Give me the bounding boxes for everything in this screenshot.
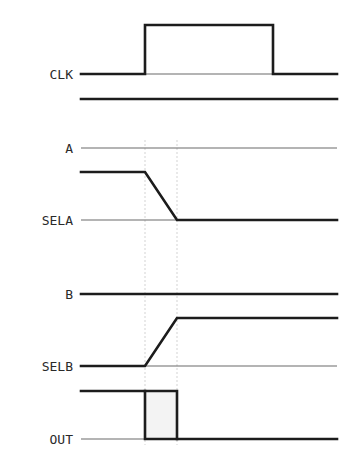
timing-diagram: CLK A SELA B SELB OUT [0, 0, 355, 464]
signal-label-a: A [65, 141, 73, 156]
out-waveform [81, 391, 337, 439]
signal-label-out: OUT [50, 432, 74, 447]
signal-label-b: B [65, 287, 73, 302]
signal-b: B [65, 287, 337, 302]
signal-sela: SELA [42, 172, 337, 228]
out-glitch-fill [145, 391, 177, 439]
selb-waveform [81, 318, 337, 366]
signal-out: OUT [50, 391, 337, 447]
signal-label-sela: SELA [42, 213, 73, 228]
signal-selb: SELB [42, 318, 337, 374]
clk-waveform [81, 25, 337, 74]
signal-label-selb: SELB [42, 359, 73, 374]
signal-a: A [65, 141, 337, 156]
sela-waveform [81, 172, 337, 220]
signal-clk: CLK [50, 25, 337, 99]
signal-label-clk: CLK [50, 67, 74, 82]
